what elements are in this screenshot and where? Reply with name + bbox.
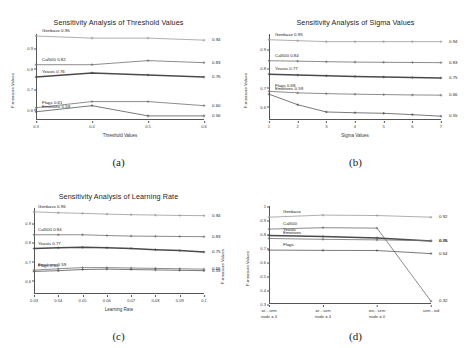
series-start-label-yeasts: Yeasts 0.77 bbox=[38, 241, 61, 246]
data-point-marker bbox=[268, 216, 271, 219]
data-point-marker bbox=[106, 268, 109, 271]
x-tick-c: 0.04 bbox=[54, 298, 62, 304]
data-point-marker bbox=[130, 247, 133, 250]
plot-area-b: F-measure Values Sigma Values 0.90.80.70… bbox=[269, 34, 441, 120]
data-point-marker bbox=[81, 246, 84, 249]
series-start-label-genbase: Genbase 0.96 bbox=[38, 204, 66, 209]
data-point-marker bbox=[440, 61, 443, 64]
x-tick-a: 0.5 bbox=[145, 124, 151, 130]
series-line-genbase bbox=[269, 215, 431, 217]
series-end-value-yeasts: 0.76 bbox=[212, 74, 221, 79]
data-point-marker bbox=[268, 237, 271, 240]
data-point-marker bbox=[430, 252, 433, 255]
y-tick-c: 0.6 bbox=[25, 278, 31, 283]
data-point-marker bbox=[130, 235, 133, 238]
y-tick-a: 0.9 bbox=[27, 46, 33, 51]
panel-letter-a: (a) bbox=[0, 156, 237, 168]
y-tick-b: 0.9 bbox=[260, 47, 266, 52]
data-point-marker bbox=[268, 59, 271, 62]
data-point-marker bbox=[33, 247, 36, 250]
data-point-marker bbox=[178, 249, 181, 252]
series-line-genbase bbox=[34, 212, 204, 216]
data-point-marker bbox=[35, 63, 38, 66]
figure-sheet: Sensitivity Analysis of Threshold Values… bbox=[0, 0, 474, 348]
y-axis-label-b: F-measure Values bbox=[243, 73, 248, 108]
y-tick-b: 0.7 bbox=[260, 85, 266, 90]
data-point-marker bbox=[376, 249, 379, 252]
data-point-marker bbox=[57, 246, 60, 249]
data-point-marker bbox=[440, 77, 443, 80]
y-tick-d: 0.4 bbox=[260, 288, 266, 293]
data-point-marker bbox=[178, 269, 181, 272]
data-point-marker bbox=[325, 111, 328, 114]
x-axis-label-c: Learning Rate bbox=[105, 307, 133, 312]
data-point-marker bbox=[268, 38, 271, 41]
data-point-marker bbox=[91, 72, 94, 75]
panel-letter-c: (c) bbox=[0, 330, 237, 342]
x-tick-a: 0.3 bbox=[33, 124, 39, 130]
y-tick-a: 0.7 bbox=[27, 87, 33, 92]
data-point-marker bbox=[376, 214, 379, 217]
data-point-marker bbox=[178, 235, 181, 238]
data-point-marker bbox=[440, 40, 443, 43]
series-end-value-flags: 0.55 bbox=[212, 267, 221, 272]
data-point-marker bbox=[147, 74, 150, 77]
x-tick-b: 7 bbox=[440, 124, 442, 130]
data-point-marker bbox=[411, 76, 414, 79]
x-tick-c: 0.03 bbox=[30, 298, 38, 304]
data-point-marker bbox=[154, 269, 157, 272]
data-point-marker bbox=[57, 211, 60, 214]
series-start-label-yeasts: Yeasts 0.76 bbox=[42, 69, 65, 74]
data-point-marker bbox=[440, 115, 443, 118]
data-point-marker bbox=[411, 113, 414, 116]
data-point-marker bbox=[268, 228, 271, 231]
y-tick-d: 1 bbox=[264, 204, 266, 209]
x-tick-d: wi - semnode = 4 bbox=[261, 308, 277, 320]
x-tick-c: 0.07 bbox=[127, 298, 135, 304]
chart-title-a: Sensitivity Analysis of Threshold Values bbox=[0, 18, 237, 27]
data-point-marker bbox=[81, 233, 84, 236]
data-point-marker bbox=[91, 104, 94, 107]
data-point-marker bbox=[322, 226, 325, 229]
data-point-marker bbox=[296, 39, 299, 42]
data-point-marker bbox=[147, 100, 150, 103]
data-point-marker bbox=[203, 61, 206, 64]
series-end-value-genbase: 0.92 bbox=[439, 214, 448, 219]
data-point-marker bbox=[411, 40, 414, 43]
x-axis-label-b: Sigma Values bbox=[341, 133, 368, 138]
series-start-label-flags: Flags bbox=[283, 242, 294, 247]
data-point-marker bbox=[106, 234, 109, 237]
y-tick-d: 0.7 bbox=[260, 246, 266, 251]
data-point-marker bbox=[411, 61, 414, 64]
data-point-marker bbox=[35, 35, 38, 38]
data-point-marker bbox=[411, 94, 414, 97]
series-end-value-flags: 0.64 bbox=[439, 250, 448, 255]
series-end-value-emotions: 0.66 bbox=[439, 237, 448, 242]
data-point-marker bbox=[268, 93, 271, 96]
data-point-marker bbox=[322, 214, 325, 217]
x-tick-b: 4 bbox=[354, 124, 356, 130]
data-point-marker bbox=[325, 60, 328, 63]
data-point-marker bbox=[382, 40, 385, 43]
data-point-marker bbox=[35, 106, 38, 109]
data-point-marker bbox=[354, 61, 357, 64]
y-tick-b: 0.8 bbox=[260, 66, 266, 71]
series-end-value-yeasts: 0.75 bbox=[212, 248, 221, 253]
series-start-label-flags: Flags 0.68 bbox=[38, 263, 59, 268]
series-end-value-emotions: 0.56 bbox=[212, 112, 221, 117]
y-tick-c: 0.9 bbox=[25, 221, 31, 226]
series-start-label-emotions: Emotions 0.59 bbox=[275, 86, 303, 91]
data-point-marker bbox=[325, 40, 328, 43]
data-point-marker bbox=[268, 90, 271, 93]
series-line-flags bbox=[269, 250, 431, 254]
chart-title-b: Sensitivity Analysis of Sigma Values bbox=[237, 18, 474, 27]
data-point-marker bbox=[147, 59, 150, 62]
data-point-marker bbox=[382, 76, 385, 79]
series-end-value-genbase: 0.94 bbox=[212, 37, 221, 42]
series-start-label-emotions: Emotions bbox=[283, 230, 301, 235]
data-point-marker bbox=[81, 268, 84, 271]
series-end-value-cal500: 0.83 bbox=[212, 59, 221, 64]
data-point-marker bbox=[354, 93, 357, 96]
data-point-marker bbox=[35, 76, 38, 79]
y-tick-d: 0.5 bbox=[260, 274, 266, 279]
